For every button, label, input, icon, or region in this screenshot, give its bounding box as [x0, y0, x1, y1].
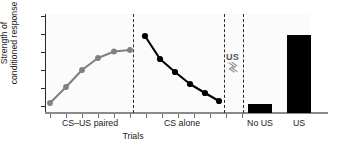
y-axis-tick	[41, 16, 45, 17]
category-label-cs-us-paired: CS–US paired	[42, 118, 138, 128]
y-axis-title-line1: Strength of	[0, 0, 9, 96]
x-axis-tick	[98, 114, 99, 118]
plot-area	[45, 14, 310, 113]
y-axis-tick	[41, 52, 45, 53]
phase-separator-2	[224, 14, 225, 113]
us-stimulus-annotation: US	[226, 52, 239, 62]
x-axis-title-text: Trials	[122, 131, 143, 141]
x-axis-tick	[114, 114, 115, 118]
phase-separator-1	[133, 14, 134, 113]
phase-separator-3	[243, 14, 244, 113]
category-label-cs-alone: CS alone	[140, 118, 224, 128]
y-axis-tick	[41, 106, 45, 107]
y-axis-tick	[41, 88, 45, 89]
x-axis-tick	[130, 114, 131, 118]
bar-no-us	[248, 104, 272, 113]
x-axis-tick	[66, 114, 67, 118]
x-axis-tick	[226, 114, 227, 118]
x-axis-tick	[178, 114, 179, 118]
x-axis-tick	[162, 114, 163, 118]
y-axis-tick	[41, 34, 45, 35]
y-axis-line	[45, 14, 46, 113]
x-axis-tick	[50, 114, 51, 118]
x-axis-tick	[210, 114, 211, 118]
category-label-us: US	[277, 118, 321, 128]
y-axis-tick	[41, 70, 45, 71]
x-axis-tick	[82, 114, 83, 118]
y-axis-title-line2: conditioned response	[9, 0, 19, 96]
x-axis-tick	[242, 114, 243, 118]
y-axis-title: Strength of conditioned response	[0, 0, 33, 96]
bar-us	[287, 35, 311, 113]
chart-figure: Strength of conditioned response	[0, 0, 338, 149]
x-axis-tick	[194, 114, 195, 118]
x-axis-line	[45, 112, 328, 113]
x-axis-tick	[146, 114, 147, 118]
x-axis-title: Trials	[0, 131, 338, 141]
